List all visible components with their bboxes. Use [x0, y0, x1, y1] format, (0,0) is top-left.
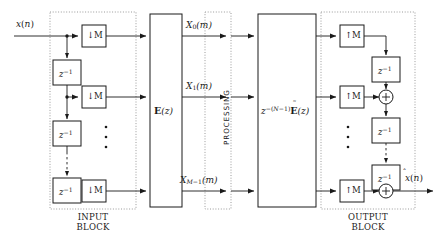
output-block-caption: OUTPUT BLOCK [321, 213, 415, 233]
upsampler-label-1: ↑M [345, 91, 361, 101]
upsampler-label-0: ↑M [345, 30, 361, 40]
input-ellipsis-dot [105, 136, 108, 139]
synthesis-matrix-label: z−(N−1)˜E(z) [261, 105, 309, 116]
output-ellipsis-dot [347, 126, 350, 129]
input-block-caption-line2: BLOCK [76, 222, 109, 232]
processing-label: PROCESSING [222, 89, 231, 145]
output-block-caption-line2: BLOCK [351, 222, 384, 232]
delay-label-output-2: z−1 [378, 173, 392, 184]
input-ellipsis-dot [105, 126, 108, 129]
upsampler-label-2: ↑M [345, 185, 361, 195]
delay-label-input-2: z−1 [59, 186, 73, 197]
output-ellipsis-dot [347, 146, 350, 149]
output-ellipsis-dot [347, 136, 350, 139]
analysis-matrix-label: E(z) [154, 105, 173, 116]
delay-label-input-0: z−1 [59, 68, 73, 79]
downsampler-label-2: ↓M [87, 185, 103, 195]
downsampler-label-1: ↓M [87, 91, 103, 101]
diagram-canvas: x(n) ̂x(n) ↓M ↓M ↓M ↑M ↑M ↑M z−1 z−1 z−1… [0, 0, 444, 250]
input-block-caption: INPUT BLOCK [50, 213, 136, 233]
downsampler-label-0: ↓M [87, 30, 103, 40]
output-block-caption-line1: OUTPUT [348, 212, 388, 222]
delay-label-output-0: z−1 [378, 65, 392, 76]
output-block-boundary [321, 12, 415, 209]
subband-label-0: X0(m) [186, 21, 212, 30]
up0-to-delay [364, 36, 386, 55]
subband-label-2: XM−1(m) [180, 176, 217, 185]
output-signal-label: ̂x(n) [405, 174, 423, 183]
input-signal-label: x(n) [16, 20, 34, 29]
delay-label-output-1: z−1 [378, 126, 392, 137]
input-ellipsis-dot [105, 146, 108, 149]
input-block-caption-line1: INPUT [78, 212, 109, 222]
subband-label-1: X1(m) [186, 82, 212, 91]
delay-label-input-1: z−1 [59, 129, 73, 140]
